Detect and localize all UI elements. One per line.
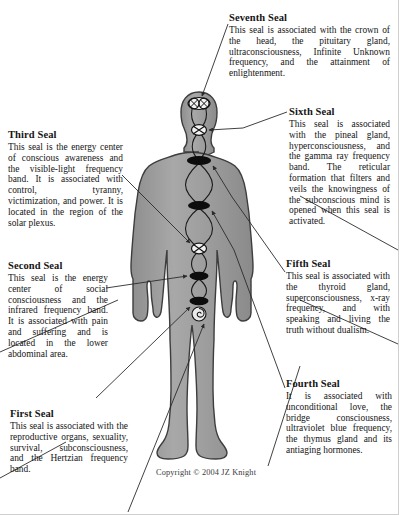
seal-title-fourth: Fourth Seal [286,378,392,390]
crown-double-x-marker [188,98,210,110]
seal-body-seventh: This seal is associated with the crown o… [229,25,390,79]
base-spiral-marker [192,307,206,321]
base-dark-oval-marker [190,297,209,305]
seal-title-sixth: Sixth Seal [289,106,390,118]
seal-block-sixth: Sixth Seal This seal is associated with … [289,106,390,227]
leader-line-seal6 [243,112,287,128]
heart-dark-oval-marker [188,201,210,210]
leader-line-seal3 [122,175,190,243]
solar-plexus-x-circle-marker [192,243,207,254]
seal-body-fifth: This seal is associated with the thyroid… [286,271,390,336]
leader-line-seal2 [106,276,187,288]
seal-block-seventh: Seventh Seal This seal is associated wit… [229,12,390,79]
lower-abdomen-dark-oval-marker [190,272,209,280]
leader-line-seal7 [202,24,228,96]
leader-line-seal1 [96,307,190,398]
seal-title-seventh: Seventh Seal [229,12,390,24]
seal-block-second: Second Seal This seal is the energy cent… [8,260,108,359]
seal-block-fifth: Fifth Seal This seal is associated with … [286,258,390,336]
brow-x-circle-marker [192,125,207,136]
leader-line-lower-a [128,324,204,512]
seal-body-first: This seal is associated with the reprodu… [10,421,128,475]
leader-line-seal4 [234,250,285,388]
diagram-page: Seventh Seal This seal is associated wit… [0,0,399,515]
seal-title-third: Third Seal [8,129,123,141]
body-silhouette [131,92,253,459]
seal-title-second: Second Seal [8,260,108,272]
seal-block-first: First Seal This seal is associated with … [10,408,128,475]
copyright-notice: Copyright © 2004 JZ Knight [156,468,256,477]
seal-body-third: This seal is the energy center of consci… [8,142,123,228]
seal-block-third: Third Seal This seal is the energy cente… [8,129,123,228]
seal-title-fifth: Fifth Seal [286,258,390,270]
seal-body-fourth: It is associated with unconditional love… [286,391,392,456]
seal-block-fourth: Fourth Seal It is associated with uncond… [286,378,392,456]
seal-body-sixth: This seal is associated with the pineal … [289,119,390,227]
seal-chain [186,98,213,301]
leader-line-seal5 [232,197,285,272]
seal-title-first: First Seal [10,408,128,420]
seal-body-second: This seal is the energy center of social… [8,273,108,359]
throat-dark-oval-marker [187,156,211,165]
